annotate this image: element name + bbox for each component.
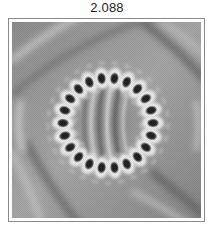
plot-frame — [8, 18, 205, 222]
figure-title: 2.088 — [0, 1, 212, 15]
field-plot-image — [12, 22, 201, 218]
field-pattern-graphic — [12, 22, 201, 218]
